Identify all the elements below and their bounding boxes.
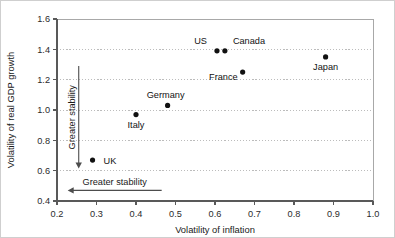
point-marker[interactable] — [165, 103, 170, 108]
point-label: France — [209, 72, 238, 82]
arrow-head — [68, 187, 74, 193]
x-tick-label-8: 1.0 — [367, 209, 380, 219]
vertical-stability-arrow: Greater stability — [67, 66, 82, 168]
arrow-head — [76, 162, 82, 168]
y-tick-label-4: 1.2 — [37, 75, 50, 85]
x-tick-label-2: 0.4 — [130, 209, 143, 219]
point-label: UK — [104, 156, 118, 166]
x-axis-title: Volatility of inflation — [175, 224, 255, 235]
y-tick-label-5: 1.4 — [37, 45, 50, 55]
x-tick-label-3: 0.5 — [169, 209, 182, 219]
point-marker[interactable] — [323, 54, 328, 59]
y-tick-label-1: 0.6 — [37, 166, 50, 176]
data-point-uk[interactable]: UK — [90, 156, 117, 166]
x-tick-label-1: 0.3 — [90, 209, 103, 219]
point-label: Canada — [233, 36, 266, 46]
point-label: Japan — [313, 62, 338, 72]
y-axis-title: Volatility of real GDP growth — [5, 52, 16, 169]
x-tick-label-6: 0.8 — [288, 209, 301, 219]
point-marker[interactable] — [222, 48, 227, 53]
chart-figure: 0.20.30.40.50.60.70.80.91.00.40.60.81.01… — [0, 0, 395, 238]
y-tick-label-6: 1.6 — [37, 14, 50, 24]
data-point-us[interactable]: US — [194, 36, 219, 53]
point-marker[interactable] — [214, 48, 219, 53]
data-point-france[interactable]: France — [209, 69, 245, 82]
data-point-japan[interactable]: Japan — [313, 54, 338, 72]
annotation-label: Greater stability — [82, 177, 147, 187]
point-marker[interactable] — [90, 157, 95, 162]
point-label: Italy — [128, 120, 145, 130]
scatter-plot: 0.20.30.40.50.60.70.80.91.00.40.60.81.01… — [1, 1, 395, 238]
x-tick-label-5: 0.7 — [248, 209, 261, 219]
point-marker[interactable] — [240, 69, 245, 74]
y-tick-label-0: 0.4 — [37, 196, 50, 206]
point-marker[interactable] — [133, 112, 138, 117]
y-tick-label-2: 0.8 — [37, 136, 50, 146]
point-label: US — [194, 36, 207, 46]
data-point-canada[interactable]: Canada — [222, 36, 266, 53]
x-tick-label-4: 0.6 — [209, 209, 222, 219]
y-tick-label-3: 1.0 — [37, 105, 50, 115]
data-point-italy[interactable]: Italy — [128, 112, 145, 130]
annotation-label: Greater stability — [67, 85, 77, 150]
data-point-germany[interactable]: Germany — [147, 90, 185, 108]
x-tick-label-7: 0.9 — [327, 209, 340, 219]
point-label: Germany — [147, 90, 185, 100]
horizontal-stability-arrow: Greater stability — [68, 177, 162, 193]
x-tick-label-0: 0.2 — [51, 209, 64, 219]
